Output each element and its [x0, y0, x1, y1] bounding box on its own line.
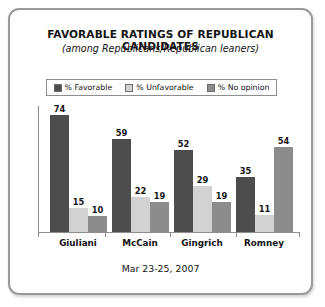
bar-column: 35 — [236, 177, 255, 232]
bar-value-label: 15 — [69, 197, 88, 207]
bar-value-label: 10 — [88, 205, 107, 215]
x-axis-tick-0 — [38, 233, 39, 237]
bar-value-label: 19 — [150, 191, 169, 201]
bar[interactable] — [236, 177, 255, 232]
legend-item-1[interactable]: % Unfavorable — [125, 83, 193, 92]
bar-column: 54 — [274, 147, 293, 232]
bar-column: 59 — [112, 139, 131, 232]
bar-column: 19 — [212, 202, 231, 232]
bar-value-label: 19 — [212, 191, 231, 201]
bar[interactable] — [50, 115, 69, 232]
chart-footnote: Mar 23-25, 2007 — [10, 263, 311, 274]
category-label-romney: Romney — [228, 238, 300, 248]
bar[interactable] — [131, 197, 150, 232]
bar-column: 19 — [150, 202, 169, 232]
bar[interactable] — [274, 147, 293, 232]
bar[interactable] — [255, 215, 274, 232]
legend-label: % Favorable — [65, 83, 113, 92]
legend-item-2[interactable]: % No opinion — [207, 83, 270, 92]
bar[interactable] — [174, 150, 193, 232]
bar-column: 11 — [255, 215, 274, 232]
bar-value-label: 22 — [131, 186, 150, 196]
bar-column: 29 — [193, 186, 212, 232]
bar-value-label: 52 — [174, 139, 193, 149]
bar-group: 741510 — [50, 115, 107, 232]
legend-label: % Unfavorable — [136, 83, 193, 92]
legend-label: % No opinion — [218, 83, 270, 92]
bar[interactable] — [193, 186, 212, 232]
bar-value-label: 35 — [236, 166, 255, 176]
bar-group: 522919 — [174, 150, 231, 232]
bar-column: 52 — [174, 150, 193, 232]
plot-area: 741510592219522919351154 — [38, 106, 294, 232]
bar[interactable] — [212, 202, 231, 232]
legend-swatch-icon — [207, 84, 215, 92]
bar-value-label: 11 — [255, 204, 274, 214]
bar-column: 74 — [50, 115, 69, 232]
bar-value-label: 54 — [274, 136, 293, 146]
x-axis-tick-2 — [170, 233, 171, 237]
bar-value-label: 74 — [50, 104, 69, 114]
bar-column: 10 — [88, 216, 107, 232]
bar[interactable] — [150, 202, 169, 232]
bar-column: 15 — [69, 208, 88, 232]
chart-legend: % Favorable% Unfavorable% No opinion — [46, 79, 277, 96]
x-axis-tick-4 — [299, 233, 300, 237]
legend-swatch-icon — [125, 84, 133, 92]
x-axis-line — [38, 232, 300, 233]
chart-subtitle: (among Republicans/Republican leaners) — [10, 43, 311, 54]
bar-column: 22 — [131, 197, 150, 232]
bar[interactable] — [88, 216, 107, 232]
chart-card: FAVORABLE RATINGS OF REPUBLICAN CANDIDAT… — [8, 8, 313, 295]
bar-value-label: 29 — [193, 175, 212, 185]
bar[interactable] — [112, 139, 131, 232]
bar-group: 592219 — [112, 139, 169, 232]
legend-item-0[interactable]: % Favorable — [54, 83, 113, 92]
x-axis-tick-3 — [236, 233, 237, 237]
bar[interactable] — [69, 208, 88, 232]
bar-value-label: 59 — [112, 128, 131, 138]
legend-swatch-icon — [54, 84, 62, 92]
x-axis-tick-1 — [105, 233, 106, 237]
bar-group: 351154 — [236, 147, 293, 232]
